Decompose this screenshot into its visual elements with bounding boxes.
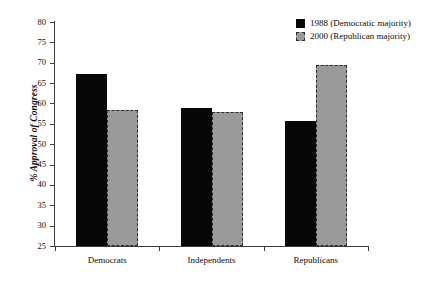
x-category-label-republicans: Republicans bbox=[256, 256, 376, 266]
legend-label: 2000 (Republican majority) bbox=[310, 32, 410, 41]
y-tick-label: 50 bbox=[20, 140, 46, 149]
y-axis-title: % Approval of Congress bbox=[29, 53, 39, 213]
chart-legend: 1988 (Democratic majority)2000 (Republic… bbox=[296, 19, 441, 45]
x-tick-mark bbox=[368, 246, 369, 251]
legend-label: 1988 (Democratic majority) bbox=[310, 19, 411, 28]
bar-democrats-series-1 bbox=[107, 110, 138, 246]
bar-independents-series-0 bbox=[181, 108, 212, 246]
bar-independents-series-1 bbox=[212, 112, 243, 246]
bar-republicans-series-0 bbox=[285, 121, 316, 246]
x-axis-line bbox=[55, 246, 368, 247]
y-tick-label: 30 bbox=[20, 221, 46, 230]
legend-item-1: 2000 (Republican majority) bbox=[296, 32, 441, 41]
y-tick-label: 70 bbox=[20, 58, 46, 67]
bar-republicans-series-1 bbox=[316, 65, 347, 246]
y-tick-label: 60 bbox=[20, 99, 46, 108]
x-tick-mark bbox=[159, 246, 160, 251]
gray-dashed-square-icon bbox=[296, 32, 305, 41]
y-tick-label: 55 bbox=[20, 119, 46, 128]
y-tick-label: 65 bbox=[20, 79, 46, 88]
x-category-label-independents: Independents bbox=[152, 256, 272, 266]
y-tick-label: 25 bbox=[20, 242, 46, 251]
x-tick-mark bbox=[55, 246, 56, 251]
x-tick-mark bbox=[264, 246, 265, 251]
bar-chart: % Approval of Congress 80757065605550454… bbox=[0, 0, 441, 290]
bar-democrats-series-0 bbox=[76, 74, 107, 246]
y-tick-label: 75 bbox=[20, 38, 46, 47]
plot-area bbox=[55, 22, 368, 246]
y-tick-label: 45 bbox=[20, 160, 46, 169]
x-category-label-democrats: Democrats bbox=[47, 256, 167, 266]
black-square-icon bbox=[296, 19, 305, 28]
legend-item-0: 1988 (Democratic majority) bbox=[296, 19, 441, 28]
y-tick-label: 80 bbox=[20, 18, 46, 27]
y-tick-label: 35 bbox=[20, 201, 46, 210]
y-tick-label: 40 bbox=[20, 180, 46, 189]
